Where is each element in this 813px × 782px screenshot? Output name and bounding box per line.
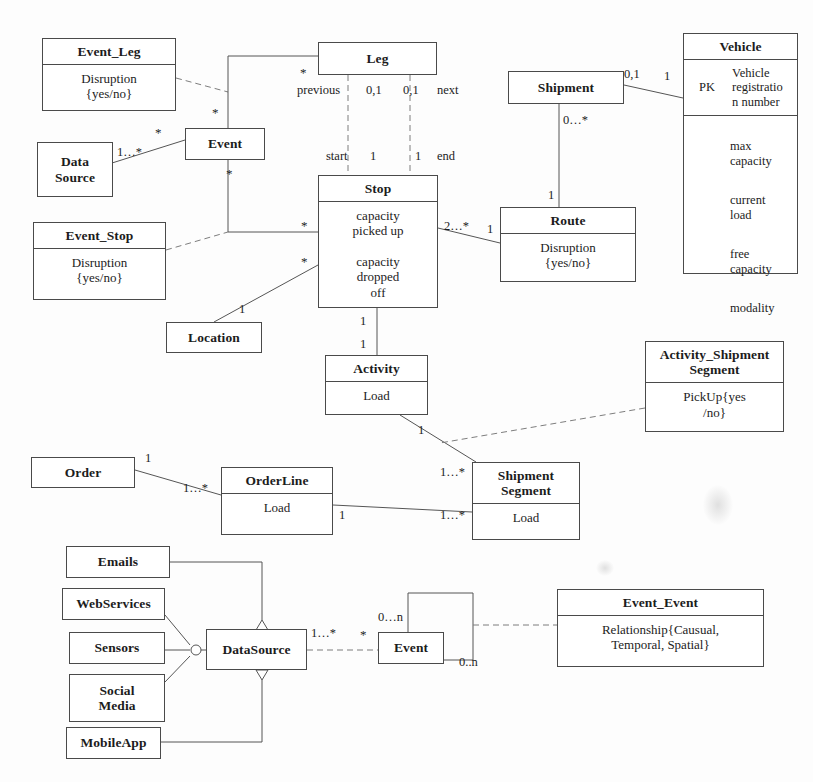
class-mobileapp[interactable]: MobileApp bbox=[66, 727, 161, 759]
class-event-bottom-title: Event bbox=[379, 640, 443, 655]
mult-event-bottom-star: * bbox=[360, 628, 367, 641]
class-stop[interactable]: Stop capacity picked up capacity dropped… bbox=[318, 175, 438, 308]
class-webservices-title: WebServices bbox=[63, 596, 164, 611]
class-social-media[interactable]: Social Media bbox=[69, 674, 165, 722]
mult-leg-next: 0,1 bbox=[403, 84, 419, 97]
scan-smudge-b bbox=[596, 560, 614, 576]
class-activity[interactable]: Activity Load bbox=[325, 355, 428, 415]
link-eventleg-to-leg bbox=[176, 78, 228, 92]
mult-stop-star-lower: * bbox=[301, 255, 308, 268]
mult-shipment-route-many: 0…* bbox=[563, 114, 588, 127]
generalization-arrow-bottom bbox=[256, 670, 268, 680]
class-vehicle-attr-3: modality bbox=[730, 301, 791, 316]
class-vehicle-attributes: max capacity current load free capacity … bbox=[684, 116, 797, 339]
class-event-top[interactable]: Event bbox=[185, 128, 265, 160]
class-event-stop-title: Event_Stop bbox=[34, 223, 165, 249]
class-event-leg-title: Event_Leg bbox=[43, 39, 175, 65]
class-event-top-title: Event bbox=[186, 136, 264, 151]
mult-stop-start: 1 bbox=[370, 150, 376, 163]
class-datasource[interactable]: DataSource bbox=[206, 629, 307, 670]
class-event-leg[interactable]: Event_Leg Disruption {yes/no} bbox=[42, 38, 176, 111]
class-datasource-title: DataSource bbox=[207, 642, 306, 657]
class-order-line[interactable]: OrderLine Load bbox=[221, 467, 333, 535]
mult-stop-route-many: 2…* bbox=[444, 220, 469, 233]
class-route-title: Route bbox=[501, 208, 635, 234]
mult-route-one: 1 bbox=[487, 223, 493, 236]
mult-order-line-many: 1…* bbox=[183, 482, 208, 495]
class-leg[interactable]: Leg bbox=[318, 42, 437, 75]
link-assoc-class-activityshipmentsegment bbox=[440, 408, 645, 443]
link-activity-to-shipmentsegment bbox=[400, 415, 476, 462]
class-shipment-segment[interactable]: Shipment Segment Load bbox=[472, 462, 580, 540]
class-data-source-top[interactable]: Data Source bbox=[37, 142, 113, 197]
class-data-source-top-title: Data Source bbox=[38, 154, 112, 184]
mult-order-one: 1 bbox=[145, 452, 151, 465]
class-stop-title: Stop bbox=[319, 176, 437, 202]
class-activity-shipment-segment[interactable]: Activity_Shipment Segment PickUp{yes /no… bbox=[645, 341, 784, 432]
class-location[interactable]: Location bbox=[166, 322, 262, 353]
link-emails-to-datasource bbox=[170, 562, 262, 620]
class-event-stop[interactable]: Event_Stop Disruption {yes/no} bbox=[33, 222, 166, 300]
mult-shipment-vehicle: 0,1 bbox=[624, 68, 640, 81]
link-order-to-orderline bbox=[135, 470, 221, 495]
link-location-to-stop bbox=[214, 265, 318, 322]
mult-event-top-star-left: * bbox=[212, 106, 219, 119]
class-order-title: Order bbox=[32, 465, 134, 480]
mult-stop-end: 1 bbox=[415, 150, 421, 163]
class-activity-shipment-segment-attributes: PickUp{yes /no} bbox=[646, 383, 783, 431]
mult-order-line-one: 1 bbox=[339, 509, 345, 522]
role-leg-next: next bbox=[437, 84, 459, 97]
class-leg-title: Leg bbox=[319, 51, 436, 66]
mult-location-one: 1 bbox=[239, 303, 245, 316]
link-eventstop-to-stop bbox=[166, 232, 228, 250]
class-shipment-title: Shipment bbox=[509, 80, 623, 95]
mult-datasource-many: 1…* bbox=[311, 627, 336, 640]
mult-leg-previous: 0,1 bbox=[366, 84, 382, 97]
link-shipment-to-vehicle bbox=[624, 85, 683, 98]
class-order[interactable]: Order bbox=[31, 457, 135, 488]
mult-vehicle-one: 1 bbox=[664, 70, 670, 83]
link-webservices-to-junction bbox=[165, 615, 190, 645]
class-vehicle-attr-0: max capacity bbox=[730, 139, 791, 169]
class-sensors-title: Sensors bbox=[70, 640, 164, 655]
class-order-line-attributes: Load bbox=[222, 494, 332, 534]
mult-activity-bottom-one: 1 bbox=[418, 424, 424, 437]
class-route[interactable]: Route Disruption {yes/no} bbox=[500, 207, 636, 282]
class-vehicle-pk-label: PK bbox=[684, 60, 730, 115]
class-vehicle-pk-row: PK Vehicle registratio n number bbox=[684, 60, 797, 116]
class-shipment[interactable]: Shipment bbox=[508, 71, 624, 104]
mult-route-top-one: 1 bbox=[548, 189, 554, 202]
link-mobileapp-to-datasource bbox=[161, 680, 262, 742]
class-social-media-title: Social Media bbox=[70, 683, 164, 713]
class-vehicle-attr-2: free capacity bbox=[730, 247, 791, 277]
mult-event-leg-star: * bbox=[300, 66, 307, 79]
mult-data-source-many: 1…* bbox=[117, 146, 142, 159]
class-activity-title: Activity bbox=[326, 356, 427, 382]
generalization-junction bbox=[191, 645, 201, 655]
mult-event-self-upper: 0…n bbox=[378, 611, 403, 624]
scan-smudge-a bbox=[703, 485, 733, 525]
class-sensors[interactable]: Sensors bbox=[69, 632, 165, 664]
class-location-title: Location bbox=[167, 330, 261, 345]
class-stop-attributes: capacity picked up capacity dropped off bbox=[319, 202, 437, 307]
class-event-bottom[interactable]: Event bbox=[378, 632, 444, 664]
role-stop-end: end bbox=[437, 150, 455, 163]
role-stop-start: start bbox=[326, 150, 348, 163]
class-vehicle[interactable]: Vehicle PK Vehicle registratio n number … bbox=[683, 33, 798, 274]
mult-segment-many-upper: 1…* bbox=[440, 466, 465, 479]
class-emails[interactable]: Emails bbox=[66, 546, 170, 578]
mult-event-self-lower: 0..n bbox=[459, 656, 478, 669]
mult-activity-top-one: 1 bbox=[360, 338, 366, 351]
uml-diagram-canvas: Event_Leg Disruption {yes/no} Data Sourc… bbox=[0, 0, 813, 782]
class-webservices[interactable]: WebServices bbox=[62, 588, 165, 620]
link-socialmedia-to-junction bbox=[165, 656, 190, 682]
class-event-event-title: Event_Event bbox=[558, 590, 763, 616]
class-activity-attributes: Load bbox=[326, 382, 427, 414]
mult-stop-star-upper: * bbox=[301, 219, 308, 232]
class-vehicle-title: Vehicle bbox=[684, 34, 797, 60]
class-event-event[interactable]: Event_Event Relationship{Causual, Tempor… bbox=[557, 589, 764, 667]
mult-event-top-star-below: * bbox=[226, 167, 233, 180]
class-emails-title: Emails bbox=[67, 554, 169, 569]
class-activity-shipment-segment-title: Activity_Shipment Segment bbox=[646, 342, 783, 383]
role-leg-previous: previous bbox=[297, 84, 340, 97]
